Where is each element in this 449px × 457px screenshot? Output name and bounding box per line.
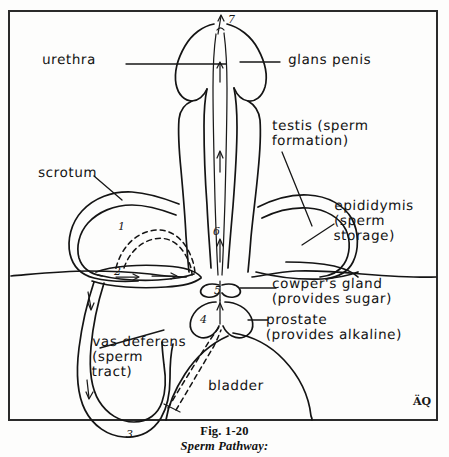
label-testis: testis (sperm formation) (272, 118, 369, 148)
penis-inner-wall-left (204, 89, 211, 268)
label-glans-penis: glans penis (288, 52, 372, 67)
pathway-marker-1: 1 (118, 220, 125, 233)
label-urethra: urethra (42, 52, 96, 67)
penis-shaft-right-outline (248, 101, 260, 272)
pathway-marker-2: 2 (114, 265, 121, 278)
testis-left-lower-fold (98, 274, 194, 280)
label-scrotum: scrotum (38, 165, 98, 180)
vas-deferens-flow-arrow-2-head (86, 392, 93, 399)
label-cowpers-gland: cowper's gland (provides sugar) (272, 276, 393, 306)
glans-penis-left-lobe (175, 24, 214, 101)
urethra-channel-right (222, 33, 227, 275)
figure-caption-number: Fig. 1-20 (0, 424, 449, 439)
leader-testis (282, 152, 312, 226)
pathway-marker-6: 6 (213, 225, 220, 238)
figure-root: urethra glans penis testis (sperm format… (0, 0, 449, 457)
label-epididymis: epididymis (sperm storage) (333, 198, 414, 243)
pathway-marker-5: 5 (214, 284, 221, 297)
leader-scrotum (94, 176, 122, 200)
label-vas-deferens: vas deferens (sperm tract) (91, 334, 186, 379)
sperm-path-dashed-testis-lower (124, 238, 192, 275)
figure-caption-title: Sperm Pathway: (0, 439, 449, 454)
label-prostate: prostate (provides alkaline) (266, 312, 403, 342)
leader-epididymis (302, 224, 334, 245)
pathway-marker-4: 4 (200, 313, 207, 326)
urethral-meatus (217, 28, 224, 30)
cowpers-gland-right-lobe (222, 284, 240, 297)
penis-inner-wall-right (228, 88, 237, 268)
artist-signature: ÄQ (413, 395, 431, 408)
urethra-channel-left (213, 34, 218, 275)
pathway-marker-7: 7 (228, 13, 235, 26)
label-bladder: bladder (208, 378, 264, 393)
